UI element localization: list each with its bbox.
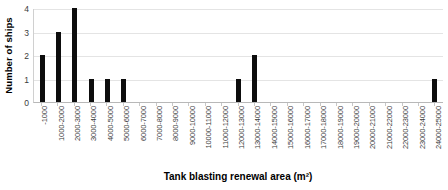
x-label-slot: 4000-5000: [99, 106, 115, 162]
bar-slot: [410, 9, 426, 102]
x-tick-label: 6000-7000: [140, 106, 148, 141]
x-label-slot: 23000-24000: [410, 106, 426, 162]
y-tick-label: 3: [24, 28, 29, 38]
bar-slot: [116, 9, 132, 102]
x-tick-label: 19000-20000: [353, 106, 361, 149]
x-tick-label: 12000-13000: [238, 106, 246, 149]
x-label-slot: 7000-8000: [148, 106, 164, 162]
x-label-slot: 2000-3000: [66, 106, 82, 162]
bar-slot: [99, 9, 115, 102]
x-axis-title: Tank blasting renewal area (m²): [33, 166, 443, 186]
bar-slot: [34, 9, 50, 102]
bar-slot: [230, 9, 246, 102]
x-label-slot: 11000-12000: [213, 106, 229, 162]
x-label-slot: 20000-21000: [361, 106, 377, 162]
x-tick-label: 4000-5000: [107, 106, 115, 141]
x-tick-label: 2000-3000: [74, 106, 82, 141]
bars-layer: [34, 9, 443, 102]
x-label-slot: 3000-4000: [82, 106, 98, 162]
x-tick-label: 3000-4000: [90, 106, 98, 141]
bar-slot: [247, 9, 263, 102]
x-tick-label: 9000-10000: [189, 106, 197, 145]
x-label-slot: 18000-19000: [328, 106, 344, 162]
bar-slot: [345, 9, 361, 102]
x-label-slot: 6000-7000: [131, 106, 147, 162]
x-label-slot: 8000-9000: [164, 106, 180, 162]
plot-area: [33, 9, 443, 103]
x-label-slot: 15000-16000: [279, 106, 295, 162]
x-label-slot: 19000-20000: [345, 106, 361, 162]
x-label-slot: 13000-14000: [246, 106, 262, 162]
y-axis-tick-labels: 01234: [16, 9, 31, 103]
x-tick-label: 18000-19000: [337, 106, 345, 149]
bar-slot: [83, 9, 99, 102]
y-axis-title: Number of ships: [0, 0, 16, 110]
x-label-slot: 12000-13000: [230, 106, 246, 162]
bar[interactable]: [432, 79, 437, 103]
y-tick-label: 4: [24, 4, 29, 14]
x-label-slot: 14000-15000: [263, 106, 279, 162]
x-tick-label: 1000-2000: [58, 106, 66, 141]
x-tick-label: 17000-18000: [320, 106, 328, 149]
x-tick-label: 14000-15000: [271, 106, 279, 149]
x-tick-label: 13000-14000: [254, 106, 262, 149]
bar-slot: [214, 9, 230, 102]
bar-slot: [132, 9, 148, 102]
x-label-slot: 24000-25000: [427, 106, 443, 162]
y-tick-label: 1: [24, 75, 29, 85]
bar[interactable]: [121, 79, 126, 103]
x-label-slot: 22000-23000: [394, 106, 410, 162]
x-tick-label: 8000-9000: [172, 106, 180, 141]
x-tick-label: 7000-8000: [156, 106, 164, 141]
bar-slot: [165, 9, 181, 102]
x-label-slot: 21000-22000: [378, 106, 394, 162]
x-tick-label: 5000-6000: [123, 106, 131, 141]
bar-slot: [50, 9, 66, 102]
bar[interactable]: [72, 8, 77, 102]
x-tick-label: 20000-21000: [369, 106, 377, 149]
x-label-slot: 5000-6000: [115, 106, 131, 162]
y-tick-label: 2: [24, 51, 29, 61]
x-tick-label: 24000-25000: [435, 106, 443, 149]
bar-slot: [181, 9, 197, 102]
bar-slot: [279, 9, 295, 102]
x-tick-label: 23000-24000: [419, 106, 427, 149]
bar-chart: Number of ships 01234 -10001000-20002000…: [0, 0, 448, 190]
x-label-slot: 10000-11000: [197, 106, 213, 162]
bar-slot: [312, 9, 328, 102]
x-tick-label: 16000-17000: [304, 106, 312, 149]
bar[interactable]: [40, 55, 45, 102]
x-tick-label: 21000-22000: [386, 106, 394, 149]
bar[interactable]: [56, 32, 61, 103]
bar-slot: [361, 9, 377, 102]
x-tick-label: -1000: [41, 106, 49, 125]
bar-slot: [378, 9, 394, 102]
x-axis-tick-labels: -10001000-20002000-30003000-40004000-500…: [33, 106, 443, 162]
bar-slot: [67, 9, 83, 102]
bar-slot: [263, 9, 279, 102]
x-label-slot: -1000: [33, 106, 49, 162]
x-tick-label: 22000-23000: [402, 106, 410, 149]
y-tick-label: 0: [24, 98, 29, 108]
bar[interactable]: [89, 79, 94, 103]
bar-slot: [427, 9, 443, 102]
bar-slot: [149, 9, 165, 102]
bar-slot: [296, 9, 312, 102]
bar[interactable]: [252, 55, 257, 102]
x-label-slot: 9000-10000: [181, 106, 197, 162]
bar-slot: [394, 9, 410, 102]
x-tick-label: 10000-11000: [205, 106, 213, 149]
x-tick-label: 15000-16000: [287, 106, 295, 149]
x-label-slot: 16000-17000: [296, 106, 312, 162]
bar[interactable]: [236, 79, 241, 103]
x-label-slot: 1000-2000: [49, 106, 65, 162]
bar[interactable]: [105, 79, 110, 103]
bar-slot: [198, 9, 214, 102]
x-tick-label: 11000-12000: [222, 106, 230, 149]
bar-slot: [328, 9, 344, 102]
x-label-slot: 17000-18000: [312, 106, 328, 162]
y-axis-title-text: Number of ships: [3, 17, 14, 93]
